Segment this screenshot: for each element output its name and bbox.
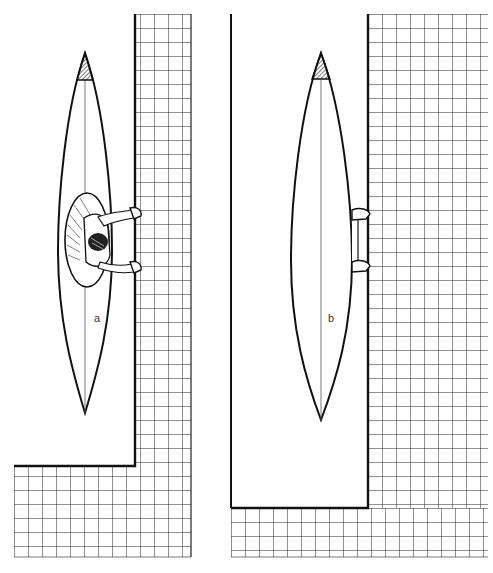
paddler-a: [65, 193, 141, 287]
kayak-b: [291, 53, 352, 420]
kayak-pool-diagram: a b: [0, 0, 493, 573]
pool-deck-tiles-a-bottom: [14, 466, 191, 557]
hand-top-b: [352, 209, 370, 220]
pool-deck-tiles-b-bottom: [231, 508, 488, 557]
panel-b: b: [231, 14, 488, 557]
panel-label-b: b: [328, 312, 334, 324]
panel-a: a: [14, 14, 231, 557]
panel-label-a: a: [94, 312, 101, 324]
bow-tip-a: [77, 53, 93, 80]
hand-bottom-b: [352, 261, 370, 272]
bow-tip-b: [312, 53, 330, 79]
pool-deck-tiles-b-right: [368, 14, 488, 508]
